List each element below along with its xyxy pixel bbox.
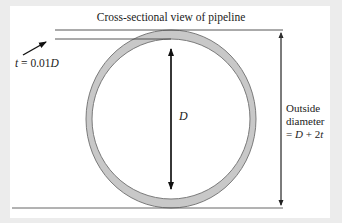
inner-diameter-label: D <box>179 109 188 124</box>
diagram-title: Cross-sectional view of pipeline <box>0 11 342 23</box>
thickness-pointer-arrow <box>23 42 46 55</box>
outside-diameter-label: Outside diameter = D + 2t <box>286 102 324 141</box>
thickness-label: t = 0.01D <box>15 57 59 69</box>
